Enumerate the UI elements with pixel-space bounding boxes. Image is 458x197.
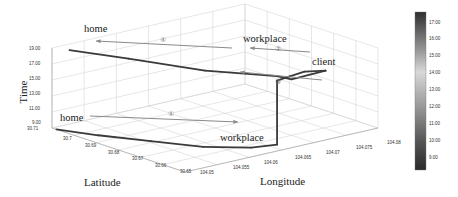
z-tick-label: 19.00 [29,46,41,51]
z-tick-label: 9.00 [32,120,41,125]
floor-gridline [84,121,217,165]
arrow-layer [90,39,322,123]
z-tick-label: 11.00 [29,106,40,111]
colorbar [415,12,426,170]
colorbar-tick-label: 17:00 [429,20,441,25]
trajectory-segment [70,50,129,58]
longitude-ticks: 104.05 104.055 104.06 104.065 104.07 104… [200,140,401,175]
z-axis-label: Time [17,80,29,103]
annotation-arrow [90,116,238,122]
colorbar-tick-label: 11:00 [429,121,440,126]
z-tick-label: 15.00 [29,76,41,81]
colorbar-tick-label: 15:00 [429,53,441,58]
z-tick-label: 13.00 [29,91,41,96]
trajectory-segment [151,141,204,147]
time-ticks: 19.00 17.00 15.00 13.00 11.00 9.00 [29,46,41,125]
trajectory-segment [205,71,277,76]
arrowhead [96,39,101,43]
y-tick-label: 104.06 [264,160,278,165]
z-tick-label: 17.00 [29,61,41,66]
x-tick-label: 30.65 [180,169,192,174]
colorbar-tick-label: 14:00 [429,70,441,75]
y-tick-label: 104.065 [295,155,312,160]
annotation-home-top: home [84,23,108,34]
trip-marker-4: ④ [160,36,166,44]
x-tick-label: 30.67 [132,156,144,161]
colorbar-ticks: 17:00 16:00 15:00 14:00 13:00 12:00 11:0… [429,20,441,160]
annotation-home-bottom: home [60,112,84,123]
annotation-workplace-top: workplace [243,33,287,44]
y-axis-label: Longitude [260,175,305,187]
latitude-ticks: 30.71 30.7 30.69 30.68 30.67 30.66 30.65 [27,126,192,174]
arrowhead [250,46,255,50]
annotation-workplace-bottom: workplace [220,132,264,143]
x-tick-label: 30.69 [85,143,97,148]
colorbar-tick-label: 12:00 [429,104,441,109]
longitude-axis-line [185,128,378,172]
y-tick-label: 104.05 [200,170,214,175]
trip-marker-2: ② [275,45,281,53]
annotation-client: client [312,56,335,67]
x-tick-label: 30.71 [27,126,39,131]
y-tick-label: 104.07 [326,150,340,155]
trajectory-segment [129,59,206,71]
chart-3d-trajectory: 19.00 17.00 15.00 13.00 11.00 9.00 30.71… [0,0,458,197]
y-tick-label: 104.075 [356,145,373,150]
trajectory-segment [203,147,251,148]
trip-marker-1: ① [168,110,174,118]
trajectory-layer [56,50,325,147]
x-tick-label: 30.68 [108,150,120,155]
colorbar-tick-label: 10:00 [429,138,441,143]
colorbar-tick-label: 9:00 [429,155,438,160]
colorbar-tick-label: 16:00 [429,36,441,41]
floor-gridline [213,91,346,135]
x-tick-label: 30.7 [63,136,72,141]
y-tick-label: 104.055 [233,165,250,170]
trajectory-segment [290,72,305,77]
x-tick-label: 30.66 [155,163,167,168]
x-axis-label: Latitude [84,176,121,188]
colorbar-tick-label: 13:00 [429,87,441,92]
trip-marker-3: ③ [275,78,281,86]
y-tick-label: 104.08 [387,140,401,145]
